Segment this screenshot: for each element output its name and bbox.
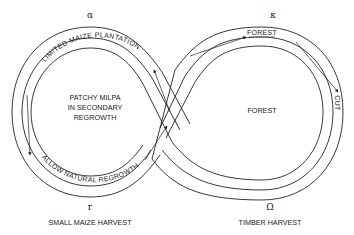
forest-center-label: FOREST: [247, 106, 277, 115]
node-alpha-symbol: α: [87, 10, 93, 20]
allow-natural-regrowth-label: ALLOW NATURAL REGROWTH: [41, 153, 140, 183]
figure-eight-diagram: α κ r Ω SMALL MAIZE HARVEST TIMBER HARVE…: [0, 0, 354, 235]
crossing-tracks: [143, 70, 195, 159]
timber-harvest-label: TIMBER HARVEST: [239, 218, 303, 227]
node-kappa-symbol: κ: [270, 10, 276, 20]
patchy-milpa-line-3: REGROWTH: [74, 113, 117, 122]
arrow-to-forest: [190, 37, 246, 56]
node-gamma-symbol: r: [88, 202, 93, 212]
arrow-up-to-alpha: [154, 70, 170, 112]
arrow-down-left: [27, 95, 30, 155]
forest-track-label: FOREST: [247, 29, 278, 36]
patchy-milpa-line-2: IN SECONDARY: [68, 103, 123, 112]
arrow-up-to-crossing: [145, 126, 167, 160]
cut-track-label: CUT: [334, 95, 341, 111]
node-omega-symbol: Ω: [266, 202, 273, 212]
patchy-milpa-line-1: PATCHY MILPA: [70, 93, 121, 102]
left-loop-track: [12, 27, 162, 197]
arrow-to-cut: [296, 42, 338, 92]
small-maize-harvest-label: SMALL MAIZE HARVEST: [48, 218, 132, 227]
